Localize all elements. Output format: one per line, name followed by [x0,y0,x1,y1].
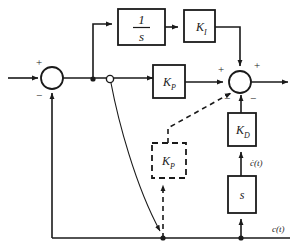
output-feedback-node-left [160,235,165,240]
control-summer-minus-left: − [224,92,230,104]
control-summer-plus-top: + [254,59,260,71]
derivative-gain-subscript: D [243,131,250,140]
error-pickoff-node [106,75,113,82]
integrator-denominator: s [139,29,144,44]
kp-alt-to-summer-wire [168,93,231,143]
integral-gain-subscript: I [203,28,207,37]
differentiator-label: s [240,188,245,202]
proportional-gain-subscript: P [170,83,176,92]
ki-to-summer-wire [215,27,240,66]
integrator-numerator: 1 [138,12,145,27]
integrator-branch-node [90,76,95,81]
control-summer-minus-right: − [250,92,256,104]
proportional-gain-alt-subscript: P [169,162,175,171]
input-error-summer [41,67,63,89]
control-signal-summer [229,71,251,93]
control-summer-plus-left: + [218,63,224,75]
output-feedback-node-right [238,235,243,240]
input-summer-minus-sign: − [36,89,42,101]
diagram-canvas: 1 s K I K P K P K D s + − + + − − ċ(t) c… [0,0,297,250]
output-rate-label: ċ(t) [250,158,263,168]
output-signal-label: c(t) [272,224,285,234]
input-summer-plus-sign: + [36,56,42,68]
block-diagram-figure: 1 s K I K P K P K D s + − + + − − ċ(t) c… [0,0,297,250]
integral-branch-wire [93,24,112,79]
